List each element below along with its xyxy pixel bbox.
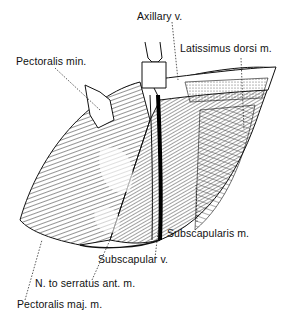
latissimus-dorsi-muscle (150, 67, 276, 102)
subscapularis-muscle (195, 105, 255, 230)
label-n-serratus: N. to serratus ant. m. (35, 277, 135, 289)
label-pectoralis-maj: Pectoralis maj. m. (17, 298, 102, 310)
retractor-top (142, 42, 166, 88)
label-axillary-v: Axillary v. (137, 10, 182, 22)
label-subscapular-v: Subscapular v. (98, 253, 168, 265)
label-latissimus-dorsi: Latissimus dorsi m. (180, 42, 272, 54)
label-pectoralis-min: Pectoralis min. (16, 55, 86, 67)
label-subscapularis: Subscapularis m. (167, 227, 249, 239)
